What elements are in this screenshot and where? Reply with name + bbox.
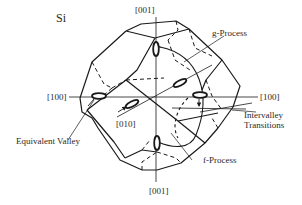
valley-right <box>193 92 207 98</box>
g-process-label: g-Process <box>212 28 247 38</box>
intervalley-transitions-label: Intervalley Transitions <box>244 110 284 130</box>
equivalent-valley-label: Equivalent Valley <box>16 136 80 146</box>
valley-top <box>153 42 159 56</box>
valley-left <box>92 93 106 99</box>
transition-arrows <box>88 99 199 112</box>
axis-label-100-left: [100] <box>47 92 67 102</box>
intervalley-line-1: Intervalley <box>244 110 284 120</box>
intervalley-line-2: Transitions <box>244 120 284 130</box>
axis-label-001-top: [001] <box>135 5 155 15</box>
f-process-label: f-Process <box>203 155 237 165</box>
axis-label-100-right: [100] <box>260 92 280 102</box>
truncated-octahedron-figure <box>0 0 302 205</box>
brillouin-zone-diagram: Si [001] [001] [100] [100] [010] g-Proce… <box>0 0 302 205</box>
valley-bottom <box>154 136 160 150</box>
valley-front <box>125 98 140 109</box>
axis-label-001-bottom: [001] <box>149 186 169 196</box>
axis-label-010: [010] <box>116 119 136 129</box>
valley-back <box>173 77 188 88</box>
material-label: Si <box>56 12 66 25</box>
